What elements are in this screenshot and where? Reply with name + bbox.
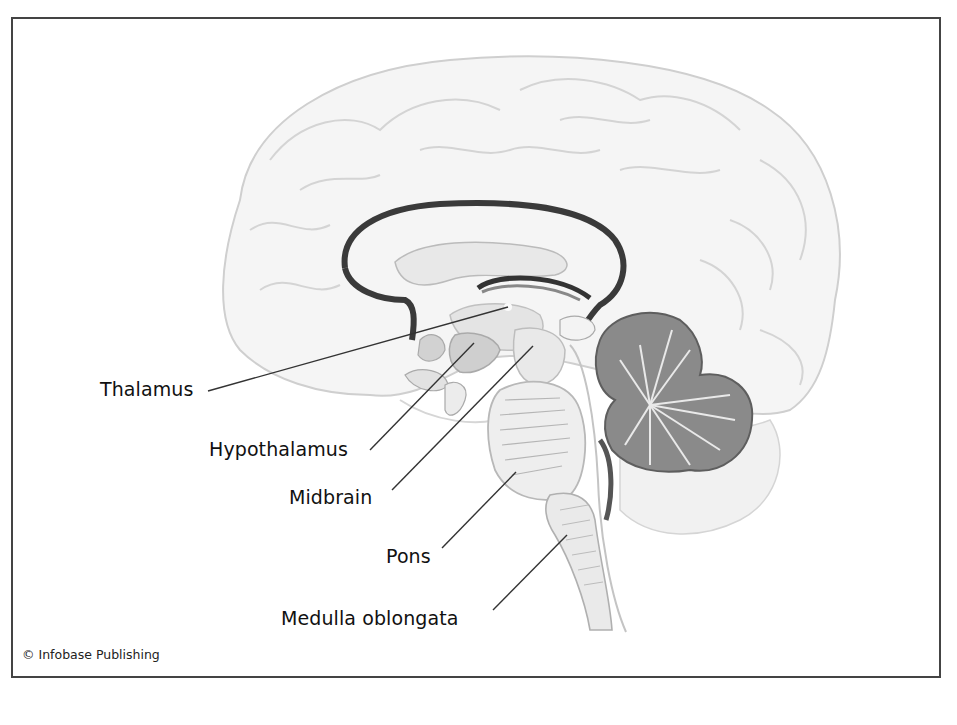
label-medulla-oblongata: Medulla oblongata (281, 607, 459, 629)
label-pons: Pons (386, 545, 431, 567)
brain-illustration (0, 0, 957, 725)
pons-region (488, 382, 585, 500)
label-midbrain: Midbrain (289, 486, 372, 508)
leader-pons (442, 472, 516, 548)
leader-medulla (493, 535, 567, 610)
copyright-credit: © Infobase Publishing (22, 647, 160, 662)
label-thalamus: Thalamus (100, 378, 193, 400)
label-hypothalamus: Hypothalamus (209, 438, 348, 460)
